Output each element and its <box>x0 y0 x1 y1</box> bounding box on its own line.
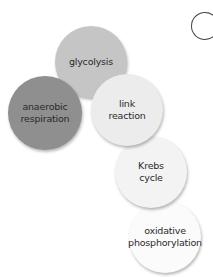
node-anaerobic-respiration: anaerobic respiration <box>8 76 82 150</box>
respiration-diagram: glycolysis anaerobic respiration oxidati… <box>0 0 213 277</box>
node-glycolysis-label: glycolysis <box>69 56 113 68</box>
node-oxidative-phosphorylation-label: oxidative phosphorylation <box>128 225 202 249</box>
node-krebs-cycle: Krebs cycle <box>115 136 187 208</box>
node-anaerobic-respiration-label: anaerobic respiration <box>21 101 70 125</box>
node-link-reaction: link reaction <box>91 74 163 146</box>
node-krebs-cycle-label: Krebs cycle <box>138 160 164 184</box>
node-oxidative-phosphorylation: oxidative phosphorylation <box>129 201 201 273</box>
corner-label-c-icon <box>191 12 213 40</box>
node-link-reaction-label: link reaction <box>108 98 145 122</box>
